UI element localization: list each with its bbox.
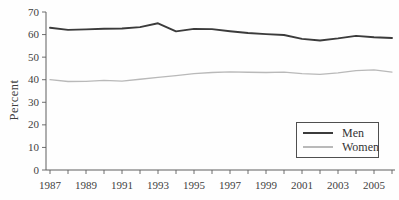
x-tick-label: 1993 — [147, 179, 170, 191]
x-tick-label: 1999 — [255, 179, 278, 191]
y-tick-label: 30 — [28, 96, 40, 108]
x-tick-label: 1991 — [111, 179, 133, 191]
line-chart-figure: 0102030405060701987198919911993199519971… — [0, 0, 399, 200]
legend-item-women: Women — [303, 141, 373, 153]
x-tick-label: 1997 — [219, 179, 242, 191]
women-line-series — [50, 70, 392, 82]
legend-item-men: Men — [303, 127, 373, 139]
y-tick-label: 40 — [28, 73, 40, 85]
x-tick-label: 2003 — [327, 179, 350, 191]
women-line-sample — [303, 146, 333, 147]
y-axis-title: Percent — [7, 69, 21, 131]
y-tick-label: 20 — [28, 118, 40, 130]
legend: Men Women — [296, 122, 379, 158]
x-tick-label: 1987 — [39, 179, 62, 191]
y-tick-label: 50 — [28, 51, 40, 63]
plot-area: 0102030405060701987198919911993199519971… — [0, 0, 399, 200]
men-line-sample — [303, 132, 333, 134]
x-tick-label: 2001 — [291, 179, 313, 191]
x-tick-label: 1989 — [75, 179, 98, 191]
x-tick-label: 2005 — [363, 179, 386, 191]
men-line-series — [50, 23, 392, 40]
y-tick-label: 0 — [34, 164, 40, 176]
y-tick-label: 10 — [28, 141, 40, 153]
x-tick-label: 1995 — [183, 179, 206, 191]
y-tick-label: 70 — [28, 6, 40, 18]
legend-label-men: Men — [342, 127, 364, 139]
y-tick-label: 60 — [28, 28, 40, 40]
legend-label-women: Women — [342, 141, 379, 153]
